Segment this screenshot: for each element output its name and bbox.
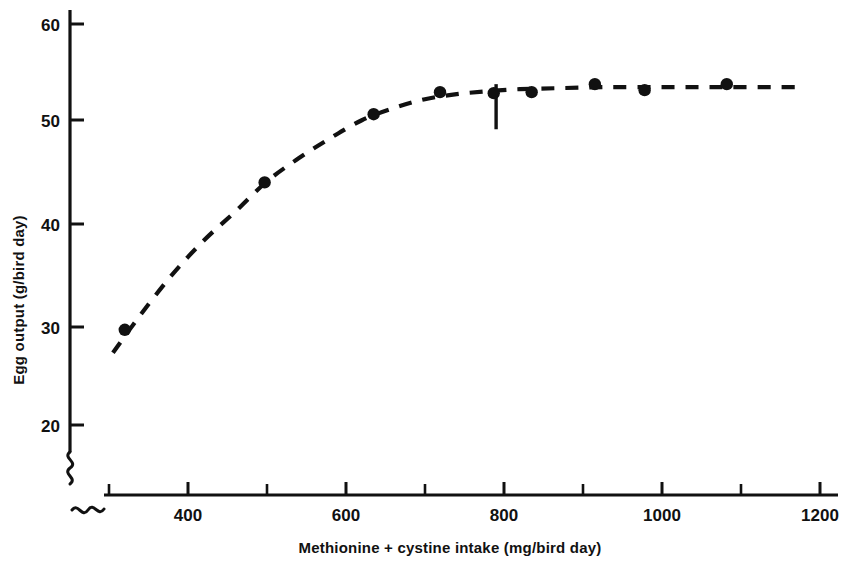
x-tick-label-1200: 1200 bbox=[801, 506, 839, 525]
data-point bbox=[589, 78, 601, 90]
x-tick-label-1000: 1000 bbox=[643, 506, 681, 525]
fitted-response-curve bbox=[113, 87, 804, 353]
y-tick-marks bbox=[70, 24, 84, 425]
data-point bbox=[525, 86, 537, 98]
x-tick-label-800: 800 bbox=[490, 506, 518, 525]
x-axis-group: 400 600 800 1000 1200 Methionine + cysti… bbox=[72, 482, 839, 556]
x-tick-marks-minor bbox=[109, 484, 741, 495]
egg-output-response-chart: 60 50 40 30 20 Egg output (g/bird day) bbox=[0, 0, 844, 565]
y-axis-title: Egg output (g/bird day) bbox=[10, 215, 27, 385]
y-tick-label-30: 30 bbox=[41, 319, 60, 338]
y-tick-label-60: 60 bbox=[41, 16, 60, 35]
x-axis-break-icon bbox=[72, 507, 104, 512]
data-point bbox=[638, 84, 650, 96]
data-point bbox=[258, 176, 270, 188]
data-point-group bbox=[119, 78, 733, 336]
data-point bbox=[119, 324, 131, 336]
x-tick-label-600: 600 bbox=[332, 506, 360, 525]
data-point bbox=[488, 87, 500, 99]
y-tick-label-50: 50 bbox=[41, 112, 60, 131]
data-point bbox=[721, 78, 733, 90]
y-tick-label-20: 20 bbox=[41, 417, 60, 436]
y-axis-break-icon bbox=[68, 452, 73, 484]
x-tick-label-400: 400 bbox=[174, 506, 202, 525]
data-point bbox=[434, 86, 446, 98]
x-axis-title: Methionine + cystine intake (mg/bird day… bbox=[299, 539, 602, 556]
x-tick-marks-major bbox=[188, 482, 820, 495]
y-axis-group: 60 50 40 30 20 Egg output (g/bird day) bbox=[10, 10, 84, 484]
y-tick-label-40: 40 bbox=[41, 216, 60, 235]
data-point bbox=[367, 108, 379, 120]
plot-area bbox=[113, 78, 804, 353]
